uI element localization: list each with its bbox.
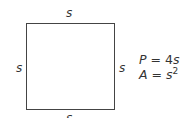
equals-sign: =	[151, 52, 161, 67]
side-label-left: s	[16, 62, 22, 74]
area-formula: A=s2	[139, 67, 180, 82]
side-label-right: s	[119, 62, 125, 74]
formula-block: P=4s A=s2	[139, 52, 180, 82]
perimeter-formula: P=4s	[139, 52, 180, 67]
perimeter-symbol: P	[139, 52, 147, 67]
square-shape	[26, 23, 115, 110]
side-label-bottom: s	[66, 112, 72, 118]
perimeter-coefficient: 4	[165, 52, 173, 67]
perimeter-variable: s	[173, 52, 180, 67]
side-label-top: s	[66, 7, 72, 19]
area-symbol: A	[139, 67, 148, 82]
equals-sign: =	[152, 67, 162, 82]
area-exponent: 2	[173, 66, 179, 76]
